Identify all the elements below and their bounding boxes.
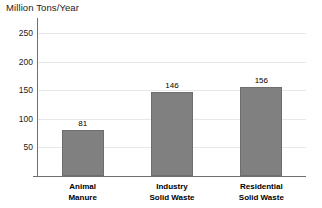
x-axis-label-line: Animal xyxy=(68,182,96,193)
y-axis-tick-label: 100 xyxy=(1,114,33,124)
x-axis-label-line: Solid Waste xyxy=(239,193,284,204)
gridline xyxy=(38,62,306,63)
y-axis-tick-label: 150 xyxy=(1,85,33,95)
x-axis-label-line: Residential xyxy=(239,182,284,193)
x-axis-line xyxy=(33,176,306,177)
bar-value-label: 156 xyxy=(255,76,268,85)
bar xyxy=(62,130,104,176)
x-axis-label-line: Industry xyxy=(149,182,194,193)
y-axis-line xyxy=(37,18,38,177)
gridline xyxy=(38,33,306,34)
bar-chart: Million Tons/Year 50100150200250 8114615… xyxy=(0,0,322,208)
plot-area: 81146156 xyxy=(38,22,306,176)
x-axis-category-label: IndustrySolid Waste xyxy=(149,182,194,203)
y-axis-tick-label: 50 xyxy=(1,142,33,152)
x-axis-label-line: Manure xyxy=(68,193,96,204)
x-axis-label-line: Solid Waste xyxy=(149,193,194,204)
x-axis-category-label: AnimalManure xyxy=(68,182,96,203)
bar-value-label: 81 xyxy=(78,119,87,128)
y-axis-tick-label: 200 xyxy=(1,57,33,67)
bar xyxy=(151,92,193,176)
bar xyxy=(240,87,282,176)
y-axis-tick-label: 250 xyxy=(1,28,33,38)
y-axis-tick-labels: 50100150200250 xyxy=(0,0,33,208)
bar-value-label: 146 xyxy=(165,81,178,90)
x-axis-category-label: ResidentialSolid Waste xyxy=(239,182,284,203)
